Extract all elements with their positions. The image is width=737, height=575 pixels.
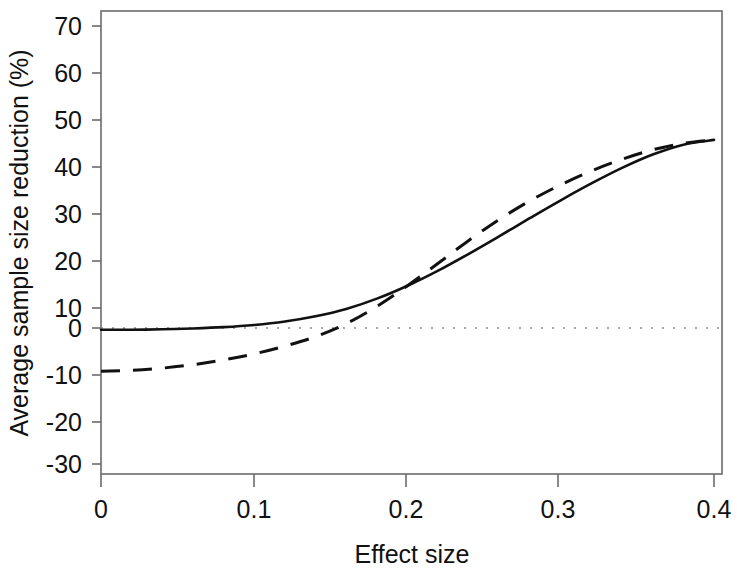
y-axis-ticks (92, 26, 101, 464)
chart-canvas: 70 60 50 40 30 20 10 0 -10 -20 -30 0 0.1… (0, 0, 737, 575)
y-tick-label-50: 50 (54, 106, 82, 134)
y-tick-label-20: 20 (54, 247, 82, 275)
x-tick-label-0p2: 0.2 (389, 495, 424, 523)
x-tick-label-0p4: 0.4 (697, 495, 732, 523)
x-tick-label-0: 0 (94, 495, 108, 523)
x-axis-title: Effect size (355, 540, 470, 568)
y-tick-label-neg20: -20 (46, 408, 82, 436)
plot-area (101, 140, 721, 371)
solid-curve-series (101, 140, 714, 330)
y-tick-label-neg10: -10 (46, 361, 82, 389)
y-tick-label-60: 60 (54, 59, 82, 87)
y-tick-label-70: 70 (54, 12, 82, 40)
chart-figure: 70 60 50 40 30 20 10 0 -10 -20 -30 0 0.1… (0, 0, 737, 575)
y-tick-label-0: 0 (68, 314, 82, 342)
x-axis-tick-labels: 0 0.1 0.2 0.3 0.4 (94, 495, 731, 523)
y-axis-tick-labels: 70 60 50 40 30 20 10 0 -10 -20 -30 (46, 12, 82, 478)
y-tick-label-neg30: -30 (46, 450, 82, 478)
plot-frame (101, 11, 722, 474)
y-tick-label-30: 30 (54, 200, 82, 228)
dashed-curve-series (101, 140, 714, 371)
y-axis-title: Average sample size reduction (%) (5, 49, 33, 436)
x-axis-ticks (101, 474, 714, 487)
x-tick-label-0p3: 0.3 (541, 495, 576, 523)
x-tick-label-0p1: 0.1 (237, 495, 272, 523)
y-tick-label-40: 40 (54, 153, 82, 181)
